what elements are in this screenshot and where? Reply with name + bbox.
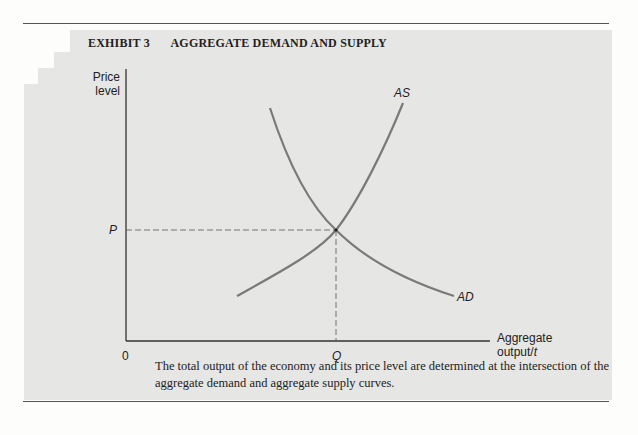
origin-label: 0 bbox=[122, 349, 129, 363]
equilibrium-point bbox=[334, 228, 337, 231]
p-label: P bbox=[109, 223, 117, 237]
as-curve bbox=[237, 103, 403, 296]
figure-caption: The total output of the economy and its … bbox=[155, 358, 615, 392]
ad-label: AD bbox=[457, 290, 474, 304]
ad-curve bbox=[270, 108, 454, 296]
x-axis-label: Aggregate output/t bbox=[497, 331, 552, 359]
as-label: AS bbox=[394, 86, 410, 100]
y-axis-label: Price level bbox=[90, 70, 120, 98]
